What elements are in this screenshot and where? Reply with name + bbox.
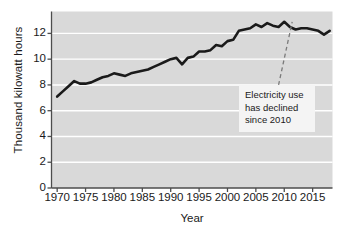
x-axis-tick-label: 1970 bbox=[44, 192, 70, 204]
chart-figure: 024681012 197019751980198519901995200020… bbox=[0, 0, 341, 235]
annotation-line: Electricity use bbox=[245, 89, 310, 102]
y-axis-tick-label: 12 bbox=[24, 27, 46, 39]
x-axis-tick-label: 1985 bbox=[130, 192, 156, 204]
x-axis-tick-label: 1980 bbox=[101, 192, 127, 204]
x-axis-tick-label: 2010 bbox=[271, 192, 297, 204]
y-axis-tick-label: 2 bbox=[24, 156, 46, 168]
annotation-line: since 2010 bbox=[245, 114, 310, 127]
x-axis-title: Year bbox=[51, 212, 333, 224]
x-axis-tick-label: 1975 bbox=[73, 192, 99, 204]
y-axis-tick-label: 4 bbox=[24, 130, 46, 142]
x-axis-tick-label: 1990 bbox=[158, 192, 184, 204]
x-axis-tick-labels: 1970197519801985199019952000200520102015 bbox=[0, 192, 341, 210]
x-axis-tick-label: 2005 bbox=[243, 192, 269, 204]
annotation-callout: Electricity usehas declinedsince 2010 bbox=[239, 85, 315, 132]
x-axis-tick-label: 1995 bbox=[186, 192, 212, 204]
y-axis-title: Thousand kilowatt hours bbox=[12, 0, 24, 180]
y-axis-tick-label: 6 bbox=[24, 105, 46, 117]
y-axis-tick-label: 10 bbox=[24, 53, 46, 65]
annotation-line: has declined bbox=[245, 102, 310, 115]
x-axis-tick-label: 2015 bbox=[300, 192, 326, 204]
x-axis-tick-label: 2000 bbox=[215, 192, 241, 204]
y-axis-tick-label: 8 bbox=[24, 79, 46, 91]
